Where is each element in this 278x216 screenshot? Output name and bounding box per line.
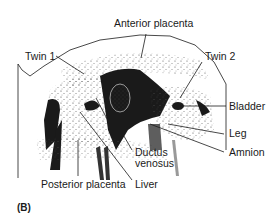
- label-twin2: Twin 2: [205, 51, 235, 62]
- label-ductus-venosus-2: venosus: [135, 158, 174, 169]
- label-posterior-placenta: Posterior placenta: [41, 179, 126, 190]
- label-amnion: Amnion: [229, 147, 265, 158]
- label-liver: Liver: [135, 179, 158, 190]
- label-anterior-placenta: Anterior placenta: [114, 18, 193, 29]
- label-leg: Leg: [229, 128, 247, 139]
- label-twin1: Twin 1: [25, 51, 55, 62]
- ultrasound-diagram: Anterior placenta Twin 1 Twin 2 Bladder …: [0, 0, 278, 216]
- panel-label: (B): [17, 202, 31, 213]
- label-bladder: Bladder: [229, 101, 265, 112]
